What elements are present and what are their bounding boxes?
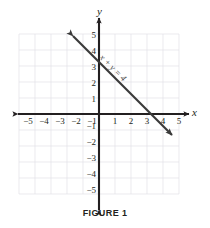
x-axis-letter-label: x bbox=[192, 107, 197, 118]
y-tick-label-neg3: −3 bbox=[82, 154, 96, 163]
x-tick-label-2: 2 bbox=[126, 117, 136, 126]
x-tick-label-neg4: −4 bbox=[38, 117, 50, 126]
figure-caption: FIGURE 1 bbox=[0, 208, 210, 218]
x-tick-label-4: 4 bbox=[158, 117, 168, 126]
y-tick-label-neg1: −1 bbox=[82, 122, 96, 131]
y-tick-label-4: 4 bbox=[86, 47, 96, 56]
y-tick-label-5: 5 bbox=[86, 31, 96, 40]
y-tick-label-2: 2 bbox=[86, 79, 96, 88]
x-tick-label-3: 3 bbox=[142, 117, 152, 126]
y-axis-letter-label: y bbox=[97, 6, 102, 17]
y-tick-label-neg2: −2 bbox=[82, 138, 96, 147]
x-tick-label-1: 1 bbox=[110, 117, 120, 126]
y-tick-label-neg5: −5 bbox=[82, 186, 96, 195]
x-tick-label-neg5: −5 bbox=[22, 117, 34, 126]
y-tick-label-1: 1 bbox=[86, 95, 96, 104]
x-tick-label-neg3: −3 bbox=[54, 117, 66, 126]
y-tick-label-3: 3 bbox=[86, 63, 96, 72]
figure-container: −5 −4 −3 −2 −1 1 2 3 4 5 5 4 3 2 1 −1 −2… bbox=[0, 0, 210, 228]
y-tick-label-neg4: −4 bbox=[82, 170, 96, 179]
x-tick-label-neg2: −2 bbox=[70, 117, 82, 126]
coordinate-plane-graphic bbox=[0, 0, 210, 228]
x-tick-label-5: 5 bbox=[174, 117, 184, 126]
